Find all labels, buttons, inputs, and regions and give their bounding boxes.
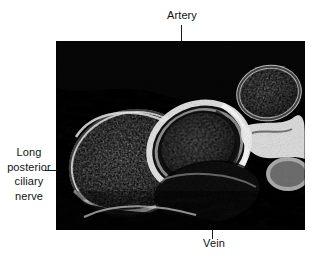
label-nerve-line-2: posterior [2,160,56,175]
histology-figure: Artery Vein Long posterior ciliary nerve [0,0,320,260]
micrograph-canvas [56,41,305,230]
label-nerve-line-1: Long [2,145,56,160]
leader-line-artery [181,25,182,41]
label-long-posterior-ciliary-nerve: Long posterior ciliary nerve [2,145,56,204]
label-nerve-line-3: ciliary [2,174,56,189]
label-vein: Vein [197,236,231,250]
leader-line-nerve [45,170,57,171]
micrograph-image [56,41,305,230]
speckle-overlay [56,41,305,230]
label-artery: Artery [160,8,204,22]
label-nerve-line-4: nerve [2,189,56,204]
